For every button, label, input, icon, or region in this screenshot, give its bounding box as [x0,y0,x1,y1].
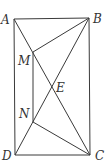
label-b: B [92,12,102,26]
segment-bm [33,18,89,52]
segment-da [14,19,15,155]
label-n: N [18,107,30,121]
segment-nc [33,122,90,155]
label-d: D [1,149,12,163]
label-e: E [55,81,65,95]
segment-bd [15,18,89,155]
geometry-diagram: A B M E N D C [0,0,108,166]
segment-bc [89,18,90,155]
label-c: C [95,149,104,163]
label-a: A [0,13,10,27]
label-m: M [17,54,31,68]
segment-ab [14,18,89,19]
